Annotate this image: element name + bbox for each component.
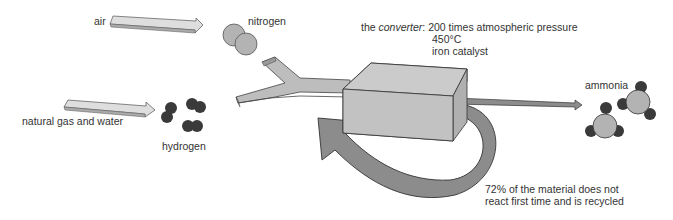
- hydrogen-label: hydrogen: [162, 140, 206, 152]
- hydrogen-molecules-icon: [161, 98, 206, 132]
- converter-prefix: the: [361, 21, 379, 33]
- natural-gas-label: natural gas and water: [22, 115, 123, 127]
- recycle-note-line1: 72% of the material does not: [485, 183, 619, 195]
- nitrogen-label: nitrogen: [248, 15, 286, 27]
- nitrogen-molecule-icon: [223, 24, 257, 55]
- converter-catalyst: iron catalyst: [432, 45, 488, 57]
- converter-box-icon: [343, 63, 467, 141]
- inlet-pipe-icon: [236, 57, 350, 107]
- air-arrow-icon: [110, 16, 203, 33]
- haber-process-diagram: air nitrogen natural gas and water hydro…: [0, 0, 673, 220]
- converter-temperature: 450°C: [432, 33, 461, 45]
- air-label: air: [94, 15, 106, 27]
- ammonia-label: ammonia: [585, 79, 628, 91]
- converter-description: the converter: 200 times atmospheric pre…: [361, 21, 578, 33]
- converter-name: converter: [379, 21, 423, 33]
- converter-pressure: : 200 times atmospheric pressure: [422, 21, 577, 33]
- recycle-note-line2: react first time and is recycled: [485, 195, 624, 207]
